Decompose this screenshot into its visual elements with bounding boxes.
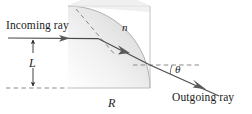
theta-angle-label: θ (175, 64, 180, 75)
dimension-L (6, 40, 68, 88)
theta-angle-arc (170, 65, 172, 74)
outgoing-ray-arrowhead (193, 80, 206, 90)
theta-arc (170, 65, 172, 74)
incoming-ray-label: Incoming ray (6, 20, 69, 32)
glass-fill (68, 6, 150, 88)
dimension-R-label: R (108, 97, 115, 109)
incoming-ray-line (8, 38, 98, 39)
refractive-index-label: n (122, 22, 128, 33)
outgoing-ray-label: Outgoing ray (172, 92, 234, 104)
refraction-figure: Incoming ray Outgoing ray L R n θ (0, 0, 252, 114)
dimension-L-label: L (29, 57, 36, 69)
